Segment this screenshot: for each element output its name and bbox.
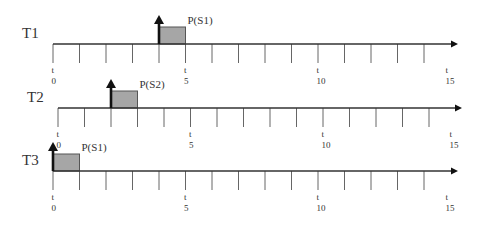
- axis-arrowhead-icon: [451, 168, 458, 175]
- tick-label-t: t: [450, 129, 453, 139]
- tick-label-t: t: [52, 65, 55, 75]
- block-label: P(S1): [188, 14, 213, 27]
- execution-block: [53, 154, 80, 171]
- tick-label-t: t: [317, 192, 320, 202]
- task-label: T2: [27, 89, 44, 105]
- tick-label-t: t: [322, 129, 325, 139]
- tick-label-t: t: [184, 192, 187, 202]
- task-label: T1: [22, 25, 39, 41]
- task-row-t1: T1P(S1)t0t5t10t15: [22, 14, 458, 86]
- tick-label-value: 0: [57, 140, 62, 150]
- tick-label-t: t: [446, 192, 449, 202]
- tick-label-value: 10: [322, 140, 332, 150]
- tick-label-value: 15: [446, 203, 456, 213]
- axis-arrowhead-icon: [455, 105, 462, 112]
- timeline-diagram: T1P(S1)t0t5t10t15T2P(S2)t0t5t10t15T3P(S1…: [0, 0, 489, 227]
- block-label: P(S1): [82, 141, 107, 154]
- tick-label-value: 15: [446, 76, 456, 86]
- tick-label-value: 0: [52, 203, 57, 213]
- tick-label-value: 5: [189, 140, 194, 150]
- arrival-arrow-icon: [106, 79, 116, 88]
- tick-label-t: t: [184, 65, 187, 75]
- task-label: T3: [22, 152, 39, 168]
- arrival-arrow-icon: [154, 15, 164, 24]
- tick-label-value: 10: [317, 203, 327, 213]
- tick-label-t: t: [189, 129, 192, 139]
- task-row-t3: T3P(S1)t0t5t10t15: [22, 141, 458, 213]
- tick-label-value: 5: [184, 203, 189, 213]
- task-row-t2: T2P(S2)t0t5t10t15: [27, 78, 462, 150]
- tick-label-value: 15: [450, 140, 460, 150]
- execution-block: [159, 27, 186, 44]
- tick-label-t: t: [446, 65, 449, 75]
- tick-label-value: 0: [52, 76, 57, 86]
- tick-label-t: t: [57, 129, 60, 139]
- tick-label-t: t: [52, 192, 55, 202]
- block-label: P(S2): [140, 78, 165, 91]
- tick-label-value: 10: [317, 76, 327, 86]
- execution-block: [111, 91, 138, 108]
- tick-label-value: 5: [184, 76, 189, 86]
- axis-arrowhead-icon: [451, 41, 458, 48]
- tick-label-t: t: [317, 65, 320, 75]
